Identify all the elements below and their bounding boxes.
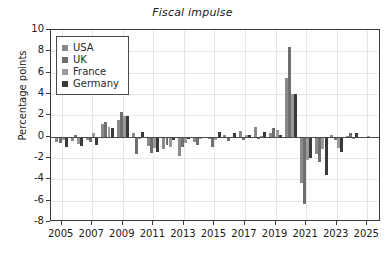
gridline-vertical: [153, 30, 154, 220]
legend-item-france[interactable]: France: [62, 66, 119, 77]
x-axis-tick-mark: [91, 221, 92, 225]
y-axis-tick-mark: [46, 72, 50, 73]
legend-swatch-icon: [62, 81, 68, 87]
gridline-vertical: [184, 30, 185, 220]
legend-label: Germany: [73, 78, 119, 89]
gridline-vertical: [214, 30, 215, 220]
y-axis-tick-mark: [46, 114, 50, 115]
legend-label: France: [73, 66, 106, 77]
y-axis-tick-label: 2: [2, 109, 44, 119]
bar: [340, 137, 343, 152]
legend-item-uk[interactable]: UK: [62, 54, 119, 65]
legend-swatch-icon: [62, 69, 68, 75]
legend-item-usa[interactable]: USA: [62, 42, 119, 53]
bar: [294, 94, 297, 137]
y-axis-tick-label: -4: [2, 173, 44, 183]
chart-legend[interactable]: USAUKFranceGermany: [56, 36, 129, 95]
gridline-vertical: [276, 30, 277, 220]
x-axis-tick-mark: [305, 221, 306, 225]
y-axis-tick-mark: [46, 93, 50, 94]
y-axis-tick-label: 0: [2, 131, 44, 141]
bar: [254, 127, 257, 137]
y-axis-tick-mark: [46, 50, 50, 51]
legend-swatch-icon: [62, 57, 68, 63]
y-axis-tick-mark: [46, 200, 50, 201]
bar: [65, 137, 68, 148]
x-axis-tick-mark: [183, 221, 184, 225]
chart-title: Fiscal impulse: [0, 6, 385, 19]
bar: [325, 137, 328, 175]
x-axis-tick-mark: [152, 221, 153, 225]
bar: [80, 137, 83, 147]
gridline-horizontal: [51, 158, 379, 159]
legend-label: USA: [73, 42, 94, 53]
bar: [111, 128, 114, 137]
y-axis-tick-mark: [46, 157, 50, 158]
legend-label: UK: [73, 54, 87, 65]
bar: [156, 137, 159, 152]
y-axis-tick-label: 10: [2, 24, 44, 34]
y-axis-tick-label: 8: [2, 45, 44, 55]
gridline-horizontal: [51, 115, 379, 116]
gridline-vertical: [306, 30, 307, 220]
x-axis-tick-label: 2025: [348, 228, 384, 239]
x-axis-tick-mark: [122, 221, 123, 225]
x-axis-tick-mark: [366, 221, 367, 225]
gridline-horizontal: [51, 201, 379, 202]
x-axis-tick-mark: [275, 221, 276, 225]
gridline-vertical: [367, 30, 368, 220]
x-axis-tick-mark: [244, 221, 245, 225]
y-axis-tick-mark: [46, 136, 50, 137]
bar: [309, 137, 312, 158]
gridline-vertical: [337, 30, 338, 220]
legend-item-germany[interactable]: Germany: [62, 78, 119, 89]
chart-figure: Fiscal impulse Percentage points USAUKFr…: [0, 0, 385, 256]
zero-baseline: [51, 137, 379, 138]
y-axis-tick-mark: [46, 178, 50, 179]
x-axis-tick-mark: [213, 221, 214, 225]
y-axis-tick-label: -8: [2, 216, 44, 226]
x-axis-tick-mark: [61, 221, 62, 225]
gridline-horizontal: [51, 179, 379, 180]
y-axis-tick-mark: [46, 29, 50, 30]
y-axis-tick-label: 6: [2, 67, 44, 77]
bar: [135, 137, 138, 154]
y-axis-tick-label: -6: [2, 195, 44, 205]
x-axis-tick-mark: [336, 221, 337, 225]
y-axis-tick-mark: [46, 221, 50, 222]
legend-swatch-icon: [62, 45, 68, 51]
y-axis-tick-label: -2: [2, 152, 44, 162]
bar: [126, 116, 129, 136]
gridline-vertical: [245, 30, 246, 220]
y-axis-tick-label: 4: [2, 88, 44, 98]
